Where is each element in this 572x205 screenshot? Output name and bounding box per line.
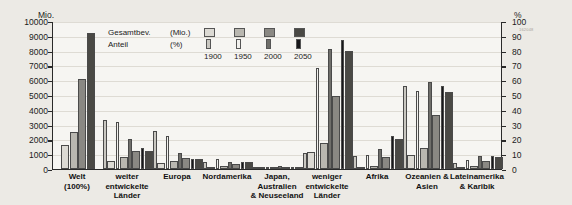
bar-anteil <box>428 82 432 169</box>
bar-anteil <box>291 167 295 169</box>
bar-anteil <box>103 120 107 169</box>
bar-gesamtbev <box>257 167 265 169</box>
bar-gesamtbev <box>220 166 228 169</box>
legend-swatch-gesamtbev <box>204 28 215 37</box>
bar-gesamtbev <box>345 51 353 169</box>
legend-year-label: 1950 <box>234 52 264 61</box>
bar-gesamtbev <box>357 167 365 169</box>
y-tick-right: 60 <box>512 77 521 85</box>
chart-legend: Gesamtbev. (Mio.) Anteil (%) 19001950200… <box>108 26 324 61</box>
bar-gesamtbev <box>270 167 278 169</box>
y-tick-left: 8000 <box>29 48 48 56</box>
bar-gesamtbev <box>332 96 340 169</box>
watermark-text: 162048 <box>519 27 534 32</box>
legend-swatch-gesamtbev <box>264 28 275 37</box>
legend-year-label: 2050 <box>294 52 324 61</box>
y-tick-right: 80 <box>512 48 521 56</box>
bar-gesamtbev <box>470 166 478 169</box>
bar-gesamtbev <box>282 167 290 169</box>
legend-swatch-cell <box>294 39 324 49</box>
bar-anteil <box>228 162 232 169</box>
bar-gesamtbev <box>382 157 390 169</box>
bar-gesamtbev <box>432 115 440 169</box>
y-tick-right: 30 <box>512 122 521 130</box>
bar-anteil <box>453 163 457 169</box>
bar-gesamtbev <box>207 167 215 169</box>
y-tick-right: 90 <box>512 33 521 41</box>
bar-gesamtbev <box>445 92 453 169</box>
bar-group <box>353 22 403 169</box>
bar-anteil <box>141 148 145 169</box>
bar-gesamtbev <box>157 163 165 169</box>
legend-swatch-cell <box>264 28 294 37</box>
bar-anteil <box>253 167 257 169</box>
legend-swatches-anteil <box>204 39 324 49</box>
legend-swatch-cell <box>204 39 234 49</box>
bar-gesamtbev <box>182 158 190 169</box>
y-tick-left: 4000 <box>29 107 48 115</box>
bar-gesamtbev <box>107 161 115 169</box>
legend-label-gesamtbev: Gesamtbev. <box>108 28 170 37</box>
category-label: Lateinamerika & Karibik <box>446 172 508 191</box>
tick-mark <box>48 170 52 171</box>
bar-gesamtbev <box>395 139 403 169</box>
bar-anteil <box>491 156 495 169</box>
bar-group <box>403 22 453 169</box>
bar-anteil <box>153 131 157 169</box>
y-tick-right: 0 <box>512 166 517 174</box>
bar-gesamtbev <box>482 161 490 169</box>
bar-anteil <box>341 40 345 169</box>
bar-gesamtbev <box>407 155 415 169</box>
bar-gesamtbev <box>232 164 240 169</box>
bar-gesamtbev <box>78 79 86 169</box>
bar-gesamtbev <box>87 33 95 169</box>
bar-gesamtbev <box>145 151 153 170</box>
y-tick-left: 6000 <box>29 77 48 85</box>
bar-gesamtbev <box>457 167 465 169</box>
bar-anteil <box>391 136 395 169</box>
legend-swatch-gesamtbev <box>234 28 245 37</box>
legend-row-gesamtbev: Gesamtbev. (Mio.) <box>108 26 324 38</box>
y-tick-right: 100 <box>512 18 526 26</box>
bar-anteil <box>116 122 120 169</box>
y-tick-right: 70 <box>512 62 521 70</box>
legend-swatch-cell <box>234 39 264 49</box>
legend-year-label: 1900 <box>204 52 234 61</box>
bar-anteil <box>128 139 132 169</box>
legend-swatch-anteil <box>236 39 241 49</box>
y-tick-left: 10000 <box>24 18 48 26</box>
legend-label-anteil: Anteil <box>108 40 170 49</box>
legend-unit-anteil: (%) <box>170 40 204 49</box>
y-tick-right: 20 <box>512 136 521 144</box>
legend-swatch-cell <box>294 28 324 37</box>
y-tick-right: 40 <box>512 107 521 115</box>
bar-anteil <box>416 91 420 169</box>
bar-gesamtbev <box>320 143 328 169</box>
tick-mark <box>502 170 506 171</box>
bar-anteil <box>266 167 270 169</box>
bar-gesamtbev <box>245 162 253 169</box>
bar-anteil <box>366 155 370 169</box>
bar-anteil <box>216 159 220 169</box>
legend-swatch-anteil <box>296 39 301 49</box>
bar-gesamtbev <box>120 157 128 169</box>
legend-year-label: 2000 <box>264 52 294 61</box>
bar-anteil <box>466 160 470 169</box>
legend-swatches-gesamtbev <box>204 28 324 37</box>
bar-anteil <box>441 86 445 169</box>
bar-gesamtbev <box>495 157 503 169</box>
bar-gesamtbev <box>132 151 140 169</box>
bar-group <box>53 22 103 169</box>
bar-anteil <box>278 166 282 169</box>
legend-swatch-anteil <box>206 39 211 49</box>
legend-swatch-cell <box>264 39 294 49</box>
y-tick-right: 50 <box>512 92 521 100</box>
bar-anteil <box>403 86 407 169</box>
bar-anteil <box>316 68 320 169</box>
y-tick-left: 9000 <box>29 33 48 41</box>
legend-unit-gesamtbev: (Mio.) <box>170 28 204 37</box>
bar-gesamtbev <box>370 166 378 169</box>
bar-anteil <box>203 162 207 169</box>
bar-anteil <box>166 136 170 169</box>
y-tick-left: 5000 <box>29 92 48 100</box>
